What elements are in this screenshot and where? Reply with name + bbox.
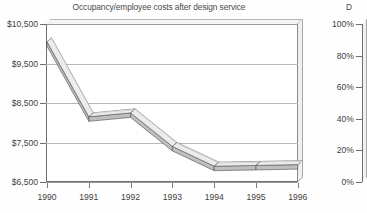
secondary-ytick-label-80: 80%: [318, 51, 354, 61]
secondary-ytick-mark-20: [356, 150, 362, 151]
screenshot-root: Occupancy/employee costs after design se…: [0, 0, 367, 213]
secondary-percent-chart: D 100% 80% 60% 40% 20% 0%: [318, 0, 367, 213]
secondary-axis-depth-face: [363, 19, 367, 181]
secondary-ytick-label-60: 60%: [318, 82, 354, 92]
secondary-ytick-mark-60: [356, 87, 362, 88]
occupancy-cost-line-chart: Occupancy/employee costs after design se…: [0, 0, 318, 213]
secondary-ytick-label-40: 40%: [318, 114, 354, 124]
secondary-chart-title: D: [346, 2, 352, 12]
secondary-ytick-mark-80: [356, 56, 362, 57]
data-series-ribbon: [0, 0, 318, 213]
secondary-ytick-label-0: 0%: [318, 177, 354, 187]
secondary-ytick-label-100: 100%: [318, 19, 354, 29]
secondary-ytick-mark-100: [356, 24, 362, 25]
secondary-ytick-mark-0: [356, 182, 362, 183]
secondary-ytick-label-20: 20%: [318, 145, 354, 155]
secondary-axis-line: [362, 24, 363, 182]
secondary-ytick-mark-40: [356, 119, 362, 120]
